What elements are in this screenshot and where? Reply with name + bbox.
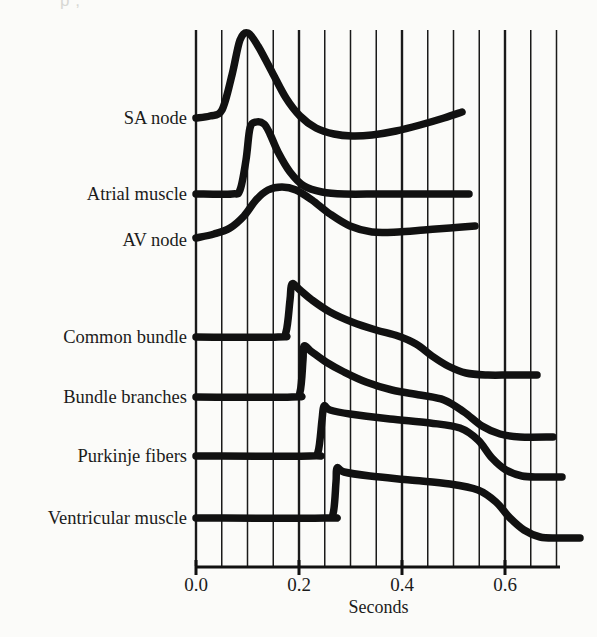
trace-sa-node bbox=[196, 33, 462, 136]
plot-area bbox=[0, 0, 597, 637]
axis-tick-label-1: 0.2 bbox=[287, 574, 311, 596]
axis-tick-label-0: 0.0 bbox=[184, 574, 208, 596]
axis-tick-label-2: 0.4 bbox=[390, 574, 414, 596]
trace-purkinje-fibers bbox=[196, 406, 562, 477]
axis-title-text: Seconds bbox=[349, 597, 409, 617]
action-potential-traces bbox=[196, 33, 580, 538]
gridlines bbox=[196, 30, 557, 566]
cardiac-action-potential-figure: p , SA node Atrial muscle AV node Common… bbox=[0, 0, 597, 637]
axis-tick-label-3: 0.6 bbox=[493, 574, 517, 596]
axis-title: Seconds bbox=[0, 597, 597, 618]
x-axis bbox=[196, 560, 560, 575]
trace-bundle-branches bbox=[196, 346, 553, 437]
